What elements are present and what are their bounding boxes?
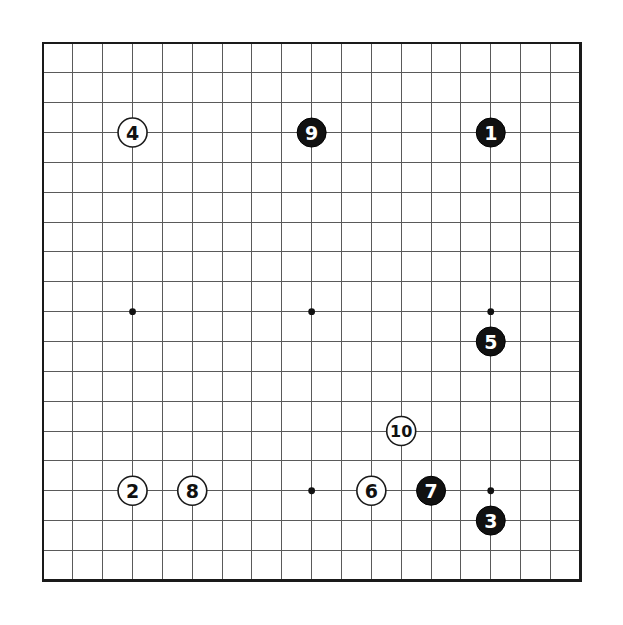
star-point (487, 487, 494, 494)
stone-move-number: 4 (126, 122, 139, 144)
stone-white-6[interactable]: 6 (357, 476, 386, 505)
stone-black-3[interactable]: 3 (476, 506, 505, 535)
star-point (487, 308, 494, 315)
stone-white-10[interactable]: 10 (387, 417, 416, 446)
star-point (308, 308, 315, 315)
stone-move-number: 9 (305, 122, 318, 144)
stone-move-number: 3 (484, 510, 497, 532)
stone-black-9[interactable]: 9 (297, 118, 326, 147)
stone-black-1[interactable]: 1 (476, 118, 505, 147)
stone-move-number: 10 (390, 422, 412, 441)
stone-move-number: 7 (424, 480, 437, 502)
star-point (129, 308, 136, 315)
star-point (308, 487, 315, 494)
stone-white-8[interactable]: 8 (178, 476, 207, 505)
stone-move-number: 2 (126, 480, 139, 502)
go-board-svg: 12345678910 (0, 0, 623, 625)
stone-black-5[interactable]: 5 (476, 327, 505, 356)
stone-move-number: 8 (186, 480, 199, 502)
stone-move-number: 6 (365, 480, 378, 502)
go-board-diagram: 12345678910 (0, 0, 623, 625)
stone-move-number: 5 (484, 331, 497, 353)
stone-white-4[interactable]: 4 (118, 118, 147, 147)
stone-white-2[interactable]: 2 (118, 476, 147, 505)
stone-move-number: 1 (484, 122, 497, 144)
stone-black-7[interactable]: 7 (417, 476, 446, 505)
